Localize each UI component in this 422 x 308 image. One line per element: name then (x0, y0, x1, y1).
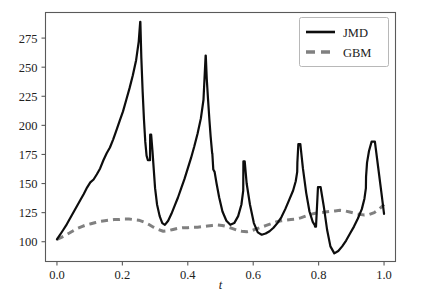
y-tick-label: 275 (19, 32, 38, 46)
legend-label-gbm: GBM (343, 46, 371, 60)
y-tick-label: 175 (19, 148, 38, 162)
y-tick-label: 225 (19, 90, 38, 104)
x-tick-label: 0.6 (245, 268, 261, 282)
caption-clipped-artifact (52, 298, 54, 306)
x-tick-label: 0.2 (115, 268, 131, 282)
legend-label-jmd: JMD (343, 26, 368, 40)
x-tick-label: 0.8 (311, 268, 327, 282)
x-axis-title: t (219, 278, 223, 292)
y-tick-label: 200 (19, 119, 38, 133)
x-tick-label: 0.0 (49, 268, 65, 282)
y-tick-label: 125 (19, 206, 38, 220)
x-tick-label: 1.0 (376, 268, 392, 282)
x-tick-label: 0.4 (180, 268, 196, 282)
figure-canvas: 100125150175200225250275 0.00.20.40.60.8… (0, 0, 422, 308)
chart-plot: 100125150175200225250275 0.00.20.40.60.8… (0, 0, 422, 308)
y-tick-label: 250 (19, 61, 38, 75)
chart-legend[interactable]: JMD GBM (300, 18, 389, 67)
y-tick-label: 100 (19, 235, 38, 249)
y-tick-label: 150 (19, 177, 38, 191)
